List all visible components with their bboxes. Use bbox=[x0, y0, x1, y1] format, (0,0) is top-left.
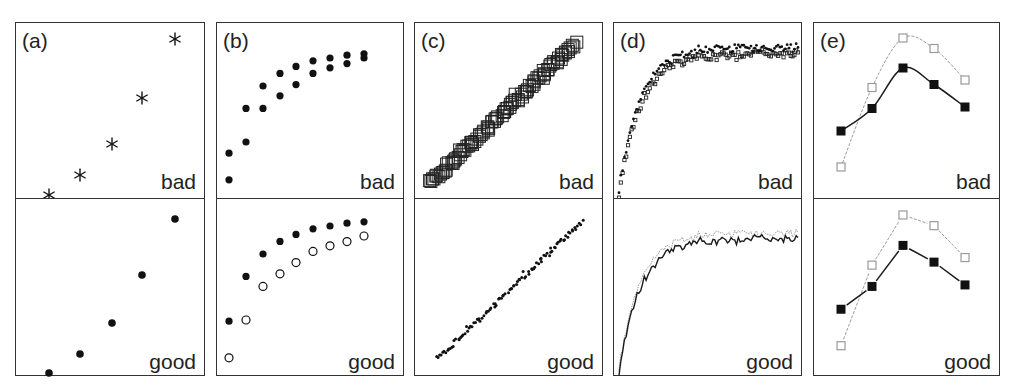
panel-e: (e)badgood bbox=[813, 22, 1000, 376]
bad-label: bad bbox=[161, 170, 196, 194]
panel-label: (c) bbox=[421, 29, 446, 53]
panel-b-bad: (b)bad bbox=[217, 23, 403, 198]
panel-b-good: good bbox=[217, 198, 403, 378]
good-label: good bbox=[348, 350, 395, 374]
panel-e-bad: (e)bad bbox=[814, 23, 999, 198]
panel-e-good: good bbox=[814, 198, 999, 378]
panel-a: (a)badgood bbox=[15, 22, 205, 376]
panel-d-good: good bbox=[614, 198, 801, 378]
panel-b: (b)badgood bbox=[216, 22, 404, 376]
bad-label: bad bbox=[559, 170, 594, 194]
panel-a-bad: (a)bad bbox=[16, 23, 204, 198]
panel-d: (d)badgood bbox=[613, 22, 802, 376]
panel-label: (d) bbox=[620, 29, 646, 53]
panel-a-good: good bbox=[16, 198, 204, 378]
panel-label: (e) bbox=[820, 29, 846, 53]
panel-label: (b) bbox=[223, 29, 249, 53]
good-label: good bbox=[746, 350, 793, 374]
panel-c-bad: (c)bad bbox=[415, 23, 602, 198]
good-label: good bbox=[944, 350, 991, 374]
panel-c: (c)badgood bbox=[414, 22, 603, 376]
bad-label: bad bbox=[956, 170, 991, 194]
good-label: good bbox=[547, 350, 594, 374]
bad-label: bad bbox=[758, 170, 793, 194]
panel-label: (a) bbox=[22, 29, 48, 53]
panel-d-bad: (d)bad bbox=[614, 23, 801, 198]
figure: (a)badgood(b)badgood(c)badgood(d)badgood… bbox=[0, 0, 1015, 387]
bad-label: bad bbox=[360, 170, 395, 194]
good-label: good bbox=[149, 350, 196, 374]
panel-c-good: good bbox=[415, 198, 602, 378]
